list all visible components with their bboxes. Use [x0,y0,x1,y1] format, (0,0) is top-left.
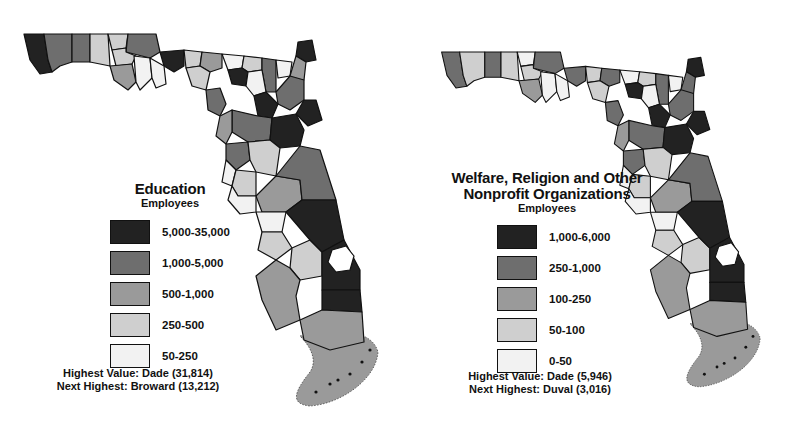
legend-item: 1,000-5,000 [110,247,240,278]
education-notes: Highest Value: Dade (31,814) Next Highes… [38,367,238,393]
county-region [258,232,292,260]
legend-swatch [110,251,150,275]
county-region [541,72,557,103]
key-island [734,357,737,360]
key-island [368,348,371,351]
legend-item: 5,000-35,000 [110,216,240,247]
legend-rows: 1,000-6,000250-1,000100-25050-1000-50 [442,221,652,376]
county-region [246,70,266,96]
welfare-legend: Welfare, Religion and Other Nonprofit Or… [442,170,652,376]
key-island [723,362,726,365]
county-region [519,79,542,102]
legend-title: Education [100,181,240,197]
key-island [752,335,755,338]
county-region [248,140,280,176]
legend-range-label: 50-250 [162,350,198,362]
legend-subtitle: Employees [442,202,652,215]
county-region [322,290,362,312]
county-region [663,124,694,155]
legend-title-line-2: Nonprofit Organizations [442,186,652,202]
county-region [184,50,202,68]
county-region [710,282,746,302]
legend-range-label: 100-250 [549,293,591,305]
legend-range-label: 500-1,000 [162,288,214,300]
legend-range-label: 0-50 [549,355,572,367]
legend-swatch [497,318,537,342]
next-highest-note: Next Highest: Broward (13,212) [38,380,238,393]
key-island [328,382,331,385]
county-region [605,101,623,126]
legend-item: 250-500 [110,309,240,340]
key-island [314,390,317,393]
county-region [641,84,659,107]
highest-value-note: Highest Value: Dade (5,946) [440,370,640,383]
legend-range-label: 1,000-5,000 [162,257,223,269]
county-region [186,66,210,90]
key-island [348,372,351,375]
legend-swatch [110,282,150,306]
legend-subtitle: Employees [100,197,240,210]
legend-item: 250-1,000 [497,252,652,283]
county-region [276,76,304,110]
county-region [501,52,519,81]
county-region [485,52,501,77]
legend-range-label: 1,000-6,000 [549,231,610,243]
legend-swatch [497,349,537,373]
county-region [90,34,110,66]
education-legend: Education Employees 5,000-35,0001,000-5,… [100,181,240,371]
next-highest-note: Next Highest: Duval (3,016) [440,383,640,396]
county-region [270,114,304,148]
county-region [110,64,136,90]
legend-item: 50-100 [497,314,652,345]
legend-item: 500-1,000 [110,278,240,309]
key-island [336,378,339,381]
county-region [256,212,286,232]
education-map-panel: Education Employees 5,000-35,0001,000-5,… [0,0,420,428]
county-region [652,230,683,255]
welfare-notes: Highest Value: Dade (5,946) Next Highest… [440,370,640,396]
legend-swatch [497,225,537,249]
county-region [587,81,609,103]
legend-swatch [497,287,537,311]
key-island [703,373,706,376]
legend-rows: 5,000-35,0001,000-5,000500-1,000250-5005… [100,216,240,371]
legend-item: 100-250 [497,283,652,314]
county-region [650,212,677,230]
welfare-map-panel: Welfare, Religion and Other Nonprofit Or… [420,0,798,428]
legend-range-label: 250-500 [162,319,204,331]
key-island [360,360,363,363]
legend-item: 1,000-6,000 [497,221,652,252]
legend-swatch [110,220,150,244]
county-region [254,92,278,118]
county-region [72,34,90,62]
legend-swatch [110,313,150,337]
county-region [228,68,248,86]
county-region [649,104,671,127]
county-region [625,83,643,99]
legend-range-label: 5,000-35,000 [162,226,230,238]
county-region [134,56,152,90]
key-island [716,366,719,369]
county-region [206,88,226,116]
legend-swatch [497,256,537,280]
legend-swatch [110,344,150,368]
key-island [744,346,747,349]
legend-range-label: 250-1,000 [549,262,601,274]
legend-title-line-1: Welfare, Religion and Other [442,170,652,186]
legend-range-label: 50-100 [549,324,585,336]
county-region [586,66,602,82]
county-region [668,90,693,121]
highest-value-note: Highest Value: Dade (31,814) [38,367,238,380]
